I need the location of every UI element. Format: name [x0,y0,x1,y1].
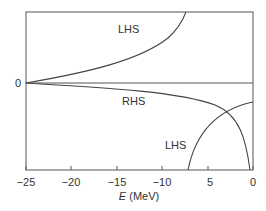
lhs-lower-label: LHS [165,139,186,151]
y-tick-zero: 0 [15,77,21,89]
lhs-upper-curve [26,12,186,83]
x-tick-label: −20 [62,176,81,188]
x-tick-label: −25 [17,176,36,188]
x-axis-title: E (MeV) [119,190,159,202]
x-tick-label: −10 [153,176,172,188]
x-tick-label: −15 [108,176,127,188]
x-axis-unit: (MeV) [126,190,159,202]
x-tick-label: 0 [250,176,256,188]
chart: LHS RHS LHS 0 −25 −20 −15 −10 5 0 E (MeV… [0,0,266,211]
lhs-upper-label: LHS [118,23,139,35]
x-tick-label: 5 [207,176,213,188]
rhs-label: RHS [122,95,145,107]
x-ticks [26,166,253,170]
